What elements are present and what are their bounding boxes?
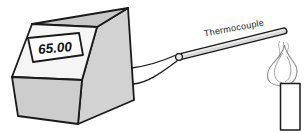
- display-readout: 65.00: [38, 39, 73, 57]
- thermocouple-diagram: 65.00 Thermocouple: [0, 0, 304, 133]
- flame: [267, 42, 296, 86]
- flame-wisp-left: [279, 42, 280, 57]
- cable-connector: [176, 54, 183, 61]
- flame-outer: [267, 45, 296, 86]
- burner-body: [281, 84, 301, 131]
- diagram-canvas: 65.00 Thermocouple: [0, 0, 304, 133]
- probe-rod-highlight: [182, 30, 283, 55]
- cable-upper-wire: [132, 56, 176, 69]
- meter-probe-cable: [132, 56, 178, 85]
- temperature-meter: 65.00: [12, 8, 134, 124]
- meter-lower-face: [12, 77, 82, 124]
- cable-lower-wire: [134, 61, 178, 84]
